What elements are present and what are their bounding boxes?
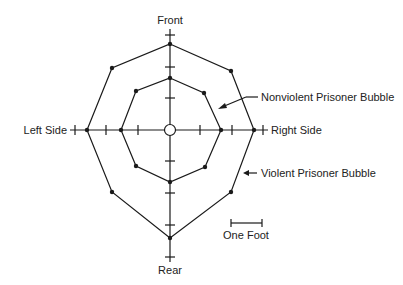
violent-arrowhead-icon: [243, 170, 249, 176]
label-front: Front: [157, 14, 183, 26]
diagram-canvas: Front Rear Left Side Right Side Nonviole…: [0, 0, 403, 285]
personal-space-diagram: Front Rear Left Side Right Side Nonviole…: [0, 0, 403, 285]
label-nonviolent-bubble: Nonviolent Prisoner Bubble: [261, 91, 394, 103]
scale-bar: [231, 219, 262, 227]
person-center-icon: [165, 125, 176, 136]
label-left-side: Left Side: [24, 124, 67, 136]
label-scale: One Foot: [223, 229, 269, 241]
nonviolent-arrowhead-icon: [218, 103, 227, 109]
label-right-side: Right Side: [271, 124, 322, 136]
label-rear: Rear: [158, 264, 182, 276]
label-violent-bubble: Violent Prisoner Bubble: [261, 167, 376, 179]
